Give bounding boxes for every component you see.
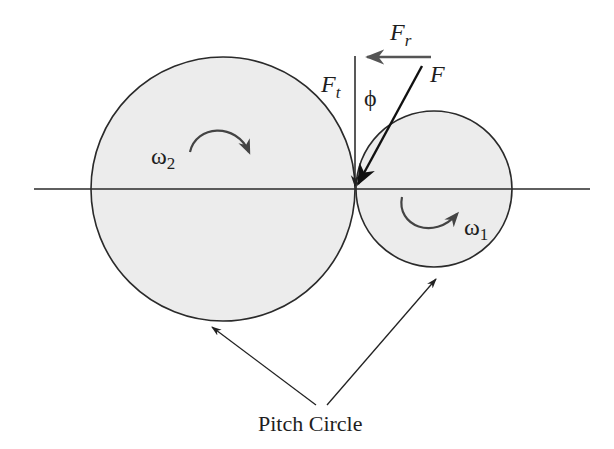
callout-arrow-small-gear [327, 279, 436, 405]
label-phi: ϕ [364, 85, 377, 111]
label-ft: Ft [320, 71, 342, 102]
pitch-circle-label: Pitch Circle [258, 411, 362, 436]
gear-force-diagram: Ft Fr F ϕ ω2 ω1 Pitch Circle [0, 0, 614, 449]
callout-arrow-large-gear [212, 327, 316, 405]
label-f: F [429, 61, 445, 87]
label-fr: Fr [389, 19, 412, 50]
